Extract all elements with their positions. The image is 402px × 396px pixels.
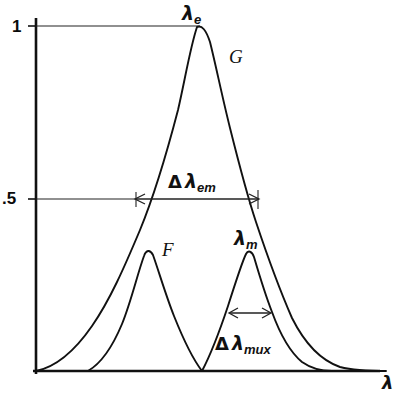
delta-glyph: Δ <box>168 171 182 192</box>
label-delta-lambda-mux: Δλmux <box>215 334 271 356</box>
spectral-width-figure: 1 .5 λe G Δλem λm F Δλmux λ <box>0 0 402 396</box>
delta-mux-subscript: mux <box>244 342 271 357</box>
label-lambda-e: λe <box>182 4 201 26</box>
curve-f <box>88 251 332 371</box>
lambda-glyph: λ <box>182 2 194 24</box>
y-tick-label-one: 1 <box>12 18 21 35</box>
lambda-glyph: λ <box>234 227 246 249</box>
x-axis-label: λ <box>382 374 393 392</box>
lambda-glyph: λ <box>232 332 244 354</box>
lambda-m-subscript: m <box>246 237 258 252</box>
label-lambda-m: λm <box>234 229 258 251</box>
lambda-glyph: λ <box>185 170 197 192</box>
label-curve-f: F <box>162 240 174 259</box>
delta-em-subscript: em <box>197 180 216 195</box>
label-curve-g: G <box>229 47 243 66</box>
lambda-e-subscript: e <box>194 12 201 27</box>
y-tick-label-half: .5 <box>2 190 16 207</box>
plot-canvas <box>0 0 402 396</box>
delta-glyph: Δ <box>215 333 229 354</box>
mux-width-arrow <box>229 308 271 318</box>
label-delta-lambda-em: Δλem <box>168 172 216 194</box>
